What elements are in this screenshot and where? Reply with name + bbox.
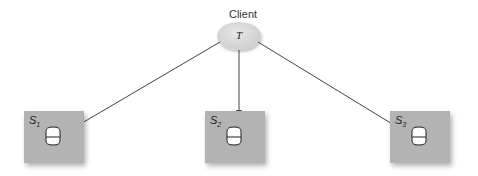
database-icon: [45, 126, 61, 146]
edge-client-s3: [258, 42, 407, 133]
server-s1: S1: [24, 111, 84, 163]
database-icon: [411, 126, 427, 146]
server-label: S1: [29, 114, 40, 128]
edge-client-s1: [65, 42, 220, 133]
database-icon: [226, 126, 242, 146]
server-label: S2: [210, 114, 221, 128]
server-label: S3: [395, 114, 406, 128]
server-s3: S3: [390, 111, 450, 163]
server-s2: S2: [205, 111, 265, 163]
